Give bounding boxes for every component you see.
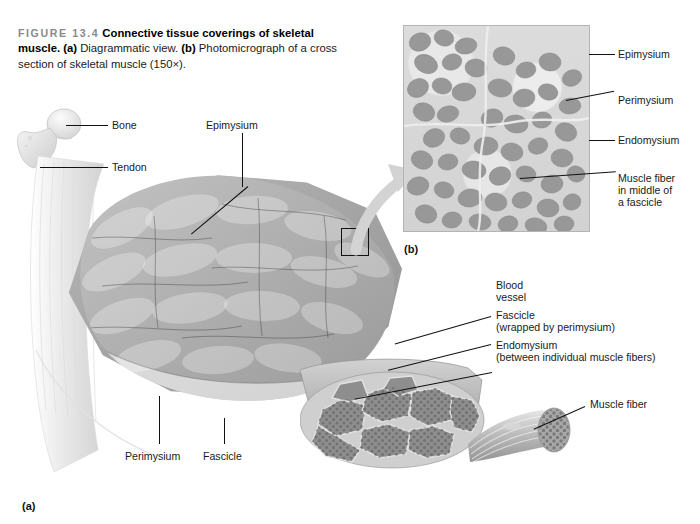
label-endomysium-1: Endomysium [496,339,557,351]
leader-line-epimysium-vertical [242,133,243,187]
part-a-marker: (a) [63,42,77,54]
label-endomysium-2: (between individual muscle fibers) [496,351,656,363]
label-fascicle-wrapped-2: (wrapped by perimysium) [496,321,615,333]
micrograph-fibers [404,26,589,231]
panel-b-marker: (b) [404,243,418,255]
part-a-text: Diagrammatic view. [80,42,178,54]
label-micro-perimysium: Perimysium [618,94,673,106]
label-blood-vessel-2: vessel [496,291,526,303]
leader-line-blood-vessel [395,316,491,345]
leader-line-perimysium [159,396,160,444]
leader-line-micro-endomysium [589,140,615,141]
figure-container: FIGURE 13.4 Connective tissue coverings … [0,0,700,524]
label-micro-muscle-fiber-3: a fascicle [618,196,662,208]
leader-line-micro-epimysium [589,54,615,55]
leader-line-fascicle [224,418,225,444]
label-epimysium: Epimysium [206,119,258,131]
label-micro-muscle-fiber-1: Muscle fiber [618,172,675,184]
label-perimysium: Perimysium [125,450,180,462]
panel-a-marker: (a) [22,500,35,512]
label-muscle-fiber: Muscle fiber [590,398,647,410]
photomicrograph-panel [404,26,589,231]
label-bone: Bone [112,119,137,131]
label-micro-muscle-fiber-2: in middle of [618,184,672,196]
label-tendon: Tendon [112,161,147,173]
figure-number: FIGURE 13.4 [18,27,99,39]
leader-line-tendon [40,167,108,168]
label-blood-vessel-1: Blood [496,279,523,291]
leader-line-bone [66,125,108,126]
label-fascicle: Fascicle [203,450,242,462]
label-micro-epimysium: Epimysium [618,48,670,60]
figure-caption: FIGURE 13.4 Connective tissue coverings … [18,26,348,72]
label-fascicle-wrapped-1: Fascicle [496,309,535,321]
label-micro-endomysium: Endomysium [618,134,679,146]
part-b-marker: (b) [181,42,195,54]
fascicle-cutaway-illustration [300,358,490,480]
